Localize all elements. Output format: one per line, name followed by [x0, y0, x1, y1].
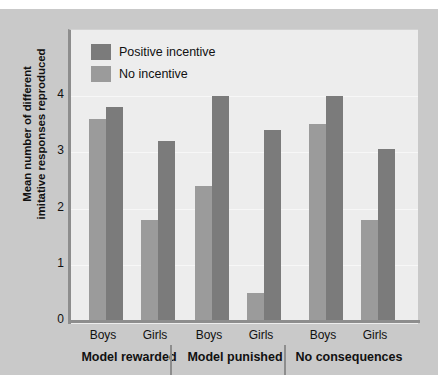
top-white-strip	[0, 0, 438, 9]
bar-no-consequences-boys-no-incentive	[309, 124, 326, 321]
x-axis-baseline	[68, 320, 420, 323]
x-tick-label-model-rewarded-boys: Boys	[81, 328, 125, 342]
y-tick-label-2: 2	[44, 201, 64, 213]
x-group-divider-1	[170, 345, 172, 375]
bar-no-consequences-girls-no-incentive	[361, 220, 378, 321]
x-tick-label-model-punished-girls: Girls	[239, 328, 283, 342]
x-tick-label-model-rewarded-girls: Girls	[133, 328, 177, 342]
x-axis-labels: BoysGirlsModel rewardedBoysGirlsModel pu…	[68, 325, 420, 375]
bar-no-consequences-boys-positive-incentive	[326, 96, 343, 321]
x-tick-label-no-consequences-girls: Girls	[353, 328, 397, 342]
y-axis-title-line-1: Mean number of different	[20, 9, 34, 259]
y-tick-label-0: 0	[44, 313, 64, 325]
bar-model-rewarded-boys-no-incentive	[89, 119, 106, 322]
x-group-divider-2	[284, 345, 286, 375]
x-group-label-no-consequences: No consequences	[289, 350, 409, 364]
y-tick-label-3: 3	[44, 144, 64, 156]
bar-model-punished-girls-no-incentive	[247, 293, 264, 321]
bars-layer	[71, 30, 421, 325]
bar-model-rewarded-girls-positive-incentive	[158, 141, 175, 321]
bar-no-consequences-girls-positive-incentive	[378, 149, 395, 321]
bar-model-rewarded-girls-no-incentive	[141, 220, 158, 321]
plot-area: Positive incentive No incentive	[68, 29, 418, 324]
bar-model-punished-boys-positive-incentive	[212, 96, 229, 321]
y-tick-label-1: 1	[44, 257, 64, 269]
y-axis-tick-labels: 01234	[40, 9, 64, 375]
x-group-label-model-punished: Model punished	[175, 350, 295, 364]
x-tick-label-no-consequences-boys: Boys	[301, 328, 345, 342]
bar-chart-figure: Mean number of different imitative respo…	[0, 9, 438, 375]
bar-model-punished-girls-positive-incentive	[264, 130, 281, 321]
bar-model-rewarded-boys-positive-incentive	[106, 107, 123, 321]
bar-model-punished-boys-no-incentive	[195, 186, 212, 321]
x-tick-label-model-punished-boys: Boys	[187, 328, 231, 342]
y-tick-label-4: 4	[44, 88, 64, 100]
